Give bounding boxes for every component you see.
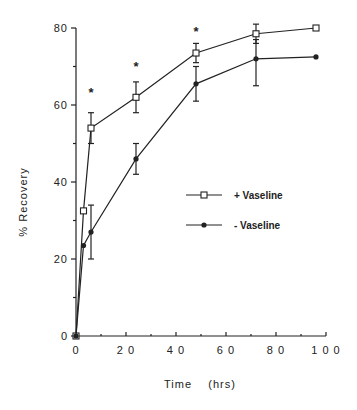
open-square-marker [133, 94, 139, 100]
significance-asterisk: * [133, 59, 139, 74]
y-axis-label: % Recovery [17, 167, 29, 236]
y-tick-label: 20 [54, 253, 68, 265]
x-tick-label: 2 0 [117, 344, 135, 356]
legend-diamond-icon [201, 222, 206, 227]
legend-square-icon [201, 192, 207, 198]
filled-diamond-marker [253, 56, 258, 61]
y-tick-label: 60 [54, 99, 68, 111]
open-square-marker [313, 25, 319, 31]
x-tick-label: 0 [72, 344, 79, 356]
x-axis-label: Time (hrs) [164, 378, 236, 390]
significance-asterisk: * [88, 85, 94, 100]
legend: + Vaseline- Vaseline [186, 190, 283, 231]
y-tick-label: 40 [54, 176, 68, 188]
x-tick-label: 8 0 [267, 344, 285, 356]
x-tick-label: 6 0 [217, 344, 235, 356]
filled-diamond-marker [81, 243, 86, 248]
open-square-marker [81, 208, 87, 214]
filled-diamond-marker [88, 229, 93, 234]
x-tick-label: 4 0 [167, 344, 185, 356]
filled-diamond-marker [73, 333, 78, 338]
open-square-marker [88, 125, 94, 131]
filled-diamond-marker [193, 81, 198, 86]
significance-asterisk: * [193, 24, 199, 39]
open-square-marker [193, 50, 199, 56]
y-tick-label: 80 [54, 22, 68, 34]
filled-diamond-marker [133, 156, 138, 161]
recovery-chart: 02040608002 04 06 08 01 0 0Time (hrs)% R… [0, 0, 357, 410]
y-tick-label: 0 [61, 330, 68, 342]
legend-label: + Vaseline [234, 190, 283, 201]
open-square-marker [253, 31, 259, 37]
legend-label: - Vaseline [234, 220, 281, 231]
filled-diamond-marker [313, 54, 318, 59]
x-tick-label: 1 0 0 [311, 344, 340, 356]
